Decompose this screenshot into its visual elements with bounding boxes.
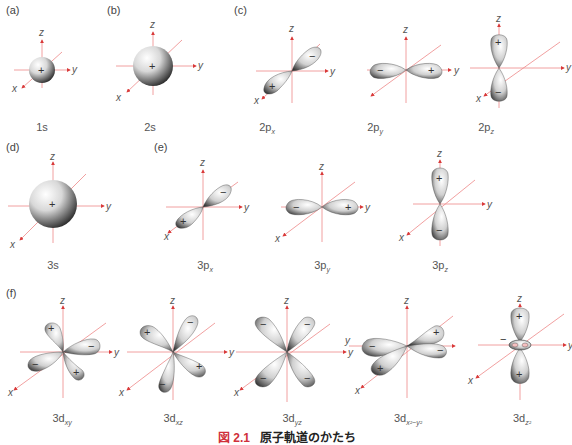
svg-text:+: +	[436, 172, 442, 184]
axis-label-x: x	[11, 83, 18, 94]
svg-text:−: −	[495, 86, 501, 98]
svg-text:x: x	[118, 387, 125, 398]
svg-text:−: −	[309, 50, 315, 62]
svg-text:+: +	[433, 326, 439, 338]
svg-text:z: z	[403, 295, 409, 306]
orbital-3dyz: − − − − z y x	[230, 290, 355, 410]
svg-text:+: +	[149, 60, 155, 72]
orbital-1s: + z y x	[0, 0, 100, 140]
orbital-2py: − + z y	[365, 0, 470, 140]
caption-3s: 3s	[23, 259, 83, 271]
caption-3dyz: 3dyz	[262, 412, 322, 426]
orbital-1s-diagram: + z y x	[0, 0, 100, 140]
svg-text:+: +	[516, 368, 522, 380]
svg-text:y: y	[364, 202, 371, 213]
svg-text:x: x	[398, 232, 405, 243]
svg-text:z: z	[288, 23, 294, 34]
svg-text:−: −	[260, 318, 266, 330]
orbital-2px: + − z y x	[240, 0, 350, 140]
svg-text:x: x	[233, 387, 240, 398]
figure-number: 図 2.1	[218, 431, 250, 445]
orbital-3dxz: + − − + z y x	[115, 290, 240, 410]
svg-text:+: +	[73, 366, 79, 378]
orbital-3py: − + z y x	[265, 140, 380, 270]
caption-3px: 3px	[175, 259, 235, 273]
svg-text:x: x	[475, 93, 482, 104]
caption-1s: 1s	[12, 121, 72, 133]
orbital-3pz: + − z y x	[385, 140, 495, 270]
svg-text:y: y	[197, 60, 204, 71]
svg-text:x: x	[163, 231, 170, 242]
svg-text:+: +	[49, 198, 55, 210]
svg-text:y: y	[565, 62, 572, 73]
axis-label-z: z	[38, 27, 44, 38]
svg-text:+: +	[48, 322, 54, 334]
svg-text:−: −	[293, 201, 299, 213]
svg-text:−: −	[187, 316, 193, 328]
figure-title: 原子軌道のかたち	[260, 431, 356, 445]
svg-text:−: −	[159, 378, 165, 390]
svg-text:−: −	[260, 372, 266, 384]
svg-text:−: −	[304, 372, 310, 384]
svg-text:x: x	[253, 95, 260, 106]
svg-text:−: −	[220, 186, 226, 198]
svg-text:x: x	[7, 387, 14, 398]
orbital-2s-diagram: + z y x	[100, 0, 220, 140]
orbital-3dz2: + + − z y x	[460, 290, 572, 410]
orbital-3dx2y2: − + + − z y x	[345, 290, 460, 410]
caption-3dxz: 3dxz	[143, 412, 203, 426]
svg-text:x: x	[467, 375, 474, 386]
svg-text:−: −	[32, 358, 38, 370]
svg-text:−: −	[436, 224, 442, 236]
svg-text:x: x	[354, 385, 361, 396]
svg-text:x: x	[274, 233, 281, 244]
caption-3pz: 3pz	[410, 259, 470, 273]
svg-text:y: y	[105, 201, 112, 212]
svg-text:+: +	[196, 360, 202, 372]
svg-text:x: x	[9, 239, 16, 250]
caption-2px: 2px	[237, 121, 297, 135]
svg-text:+: +	[428, 64, 434, 76]
svg-text:+: +	[144, 326, 150, 338]
lobe-negative	[292, 47, 321, 71]
lobe-positive	[264, 71, 292, 94]
svg-text:−: −	[377, 64, 383, 76]
svg-text:−: −	[88, 340, 94, 352]
axis-label-y: y	[71, 64, 78, 75]
svg-text:y: y	[567, 340, 572, 351]
orbital-3dxy: + − − + z y x	[0, 290, 125, 410]
caption-3dxy: 3dxy	[32, 412, 92, 426]
caption-3dx2y2: 3dx²−y²	[378, 412, 438, 426]
svg-text:+: +	[345, 201, 351, 213]
svg-text:y: y	[486, 199, 493, 210]
orbital-2s: + z y x	[100, 0, 220, 140]
caption-2py: 2py	[345, 121, 405, 135]
svg-text:−: −	[304, 318, 310, 330]
svg-text:−: −	[369, 340, 375, 352]
svg-text:z: z	[149, 19, 155, 30]
svg-text:+: +	[269, 80, 275, 92]
svg-text:+: +	[516, 310, 522, 322]
svg-text:y: y	[243, 202, 250, 213]
caption-3py: 3py	[292, 259, 352, 273]
svg-text:z: z	[199, 157, 205, 168]
svg-text:y: y	[329, 66, 336, 77]
orbital-3px: + − z y x	[160, 140, 260, 270]
svg-text:+: +	[180, 215, 186, 227]
svg-text:−: −	[500, 333, 506, 345]
caption-2s: 2s	[120, 121, 180, 133]
svg-text:z: z	[402, 24, 408, 35]
orbital-2pz: + − z y x	[470, 0, 572, 140]
svg-text:z: z	[495, 13, 501, 24]
svg-text:+: +	[495, 36, 501, 48]
svg-text:+: +	[377, 362, 383, 374]
svg-text:z: z	[169, 295, 175, 306]
caption-2pz: 2pz	[456, 121, 516, 135]
orbital-3s: + z y x	[0, 140, 140, 270]
sign-plus: +	[38, 64, 44, 76]
svg-text:z: z	[436, 148, 442, 159]
svg-text:z: z	[516, 293, 522, 304]
svg-text:z: z	[283, 295, 289, 306]
svg-text:y: y	[453, 65, 460, 76]
svg-text:z: z	[59, 295, 65, 306]
